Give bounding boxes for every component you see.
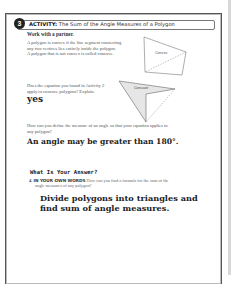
- activity-subheading: Work with a partner.: [27, 31, 74, 37]
- answer-line: find sum of angle measures.: [40, 203, 198, 213]
- answer-1: yes: [27, 94, 43, 104]
- question-4: 4. IN YOUR OWN WORDS How can you find a …: [29, 178, 189, 189]
- activity-number-badge: 3: [14, 18, 25, 29]
- page-edge-strip: [228, 0, 231, 275]
- answer-line: Divide polygons into triangles and: [40, 193, 198, 203]
- concave-polygon-figure: Concave: [115, 77, 180, 127]
- svg-text:Concave: Concave: [134, 86, 148, 90]
- activity-label: ACTIVITY:: [29, 21, 57, 27]
- question-2: How can you define the measure of an ang…: [27, 123, 217, 134]
- convex-definition: A polygon is convex if the line segment …: [27, 40, 137, 57]
- activity-title: The Sum of the Angle Measures of a Polyg…: [59, 21, 175, 27]
- definition-line: A polygon is convex if the line segment …: [27, 40, 137, 46]
- convex-label: Convex: [155, 51, 167, 55]
- question-line: any polygon?: [27, 129, 217, 135]
- section-title: What Is Your Answer?: [30, 169, 97, 175]
- definition-line: A polygon that is not convex is called c…: [27, 51, 137, 57]
- question-text: How can you find a formula for the sum o…: [87, 178, 169, 183]
- question-text-line2: angle measures of any polygon?: [29, 183, 189, 188]
- question-number: 4.: [29, 178, 32, 183]
- question-line: Does the equation you found in Activity …: [27, 83, 117, 89]
- activity-header-title: ACTIVITY: The Sum of the Angle Measures …: [29, 20, 175, 29]
- question-tag: IN YOUR OWN WORDS: [33, 178, 85, 183]
- answer-4: Divide polygons into triangles and find …: [40, 193, 198, 213]
- answer-2: An angle may be greater than 180°.: [27, 137, 178, 146]
- convex-polygon-figure: Convex: [138, 33, 193, 78]
- question-1: Does the equation you found in Activity …: [27, 83, 117, 94]
